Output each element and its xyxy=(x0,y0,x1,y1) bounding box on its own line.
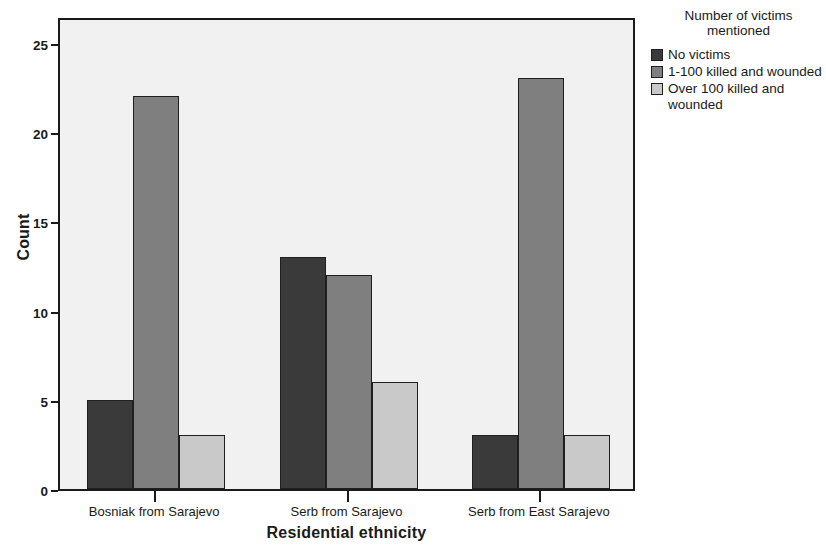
bar xyxy=(133,96,179,489)
bar xyxy=(518,78,564,489)
bar xyxy=(472,435,518,489)
x-tick-label: Serb from Sarajevo xyxy=(291,504,403,519)
bar-chart-figure: Count 0510152025 Bosniak from SarajevoSe… xyxy=(0,0,826,548)
bar xyxy=(372,382,418,489)
y-tick-label: 5 xyxy=(40,394,48,409)
bar xyxy=(87,400,133,489)
plot-area xyxy=(58,18,635,491)
x-axis-ticks: Bosniak from SarajevoSerb from SarajevoS… xyxy=(58,491,635,503)
legend-item-label: 1-100 killed and wounded xyxy=(668,64,822,80)
bar xyxy=(326,275,372,489)
y-tick-mark xyxy=(51,133,58,135)
y-tick-label: 15 xyxy=(33,216,48,231)
y-tick-mark xyxy=(51,312,58,314)
bars-container xyxy=(60,20,633,489)
x-tick-mark xyxy=(154,491,156,502)
bar xyxy=(280,257,326,489)
legend-items: No victims1-100 killed and woundedOver 1… xyxy=(651,47,826,113)
legend-item: No victims xyxy=(651,47,826,63)
x-tick-label: Serb from East Sarajevo xyxy=(468,504,610,519)
legend-item: Over 100 killed and wounded xyxy=(651,81,826,113)
legend-swatch-icon xyxy=(651,66,663,78)
y-axis-ticks: 0510152025 xyxy=(0,0,58,548)
legend-item-label: No victims xyxy=(668,47,730,63)
legend-swatch-icon xyxy=(651,49,663,61)
legend-item-label: Over 100 killed and wounded xyxy=(668,81,826,113)
y-tick-mark xyxy=(51,490,58,492)
y-tick-mark xyxy=(51,401,58,403)
y-tick-label: 20 xyxy=(33,127,48,142)
y-tick-mark xyxy=(51,222,58,224)
y-tick-mark xyxy=(51,44,58,46)
x-tick-mark xyxy=(539,491,541,502)
legend-title: Number of victims mentioned xyxy=(651,8,826,38)
bar xyxy=(179,435,225,489)
x-tick-label: Bosniak from Sarajevo xyxy=(89,504,220,519)
y-tick-label: 10 xyxy=(33,305,48,320)
y-tick-label: 25 xyxy=(33,37,48,52)
legend-item: 1-100 killed and wounded xyxy=(651,64,826,80)
x-axis-title: Residential ethnicity xyxy=(58,524,635,542)
x-tick-mark xyxy=(347,491,349,502)
legend-swatch-icon xyxy=(651,83,663,95)
y-tick-label: 0 xyxy=(40,484,48,499)
legend: Number of victims mentioned No victims1-… xyxy=(651,8,826,114)
bar xyxy=(564,435,610,489)
